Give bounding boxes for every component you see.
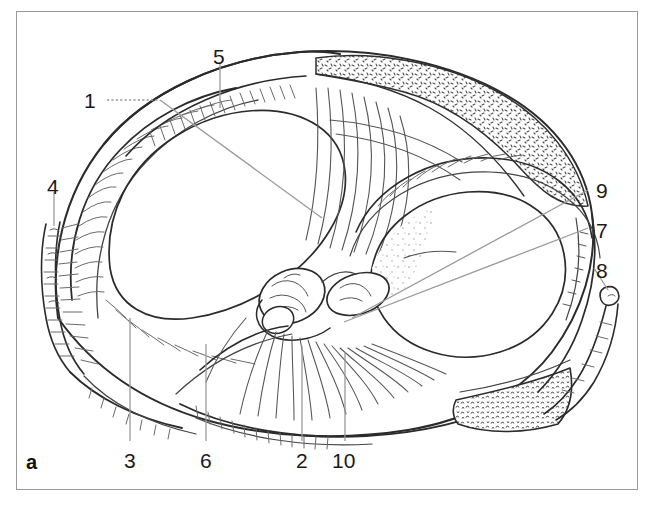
medial-collateral-ligament	[42, 222, 99, 374]
figure-root: 1 5 4 9 7 8 3 6 2 10 a	[0, 0, 649, 511]
lower-left-contour	[70, 372, 196, 439]
figure-label-10: 10	[332, 450, 355, 471]
figure-label-9: 9	[596, 180, 608, 201]
anterior-fibrous-sheet	[176, 326, 518, 449]
medial-condyle-region	[71, 88, 346, 364]
panel-letter: a	[26, 452, 37, 472]
figure-label-2: 2	[296, 450, 308, 471]
cancellous-bone-lower-right	[453, 360, 571, 432]
figure-label-3: 3	[124, 450, 136, 471]
figure-label-8: 8	[596, 260, 608, 281]
figure-label-5: 5	[213, 46, 225, 67]
anatomy-illustration	[0, 0, 649, 511]
figure-label-1: 1	[84, 90, 96, 111]
figure-label-6: 6	[200, 450, 212, 471]
leader-line-1b	[160, 100, 322, 218]
figure-label-4: 4	[47, 176, 59, 197]
figure-label-7: 7	[596, 220, 608, 241]
central-fiber-fan	[306, 88, 409, 258]
lateral-condyle-region	[350, 154, 600, 357]
